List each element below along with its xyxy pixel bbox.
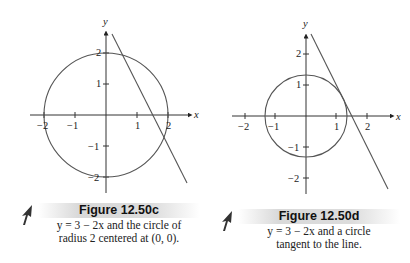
y-tick-label: −2 [288,173,299,184]
y-tick-label: 1 [96,78,101,89]
y-tick-label: 1 [296,79,301,90]
x-tick-label: −1 [268,121,279,132]
line-y-3-minus-2x [311,34,388,189]
plot-right [232,34,392,194]
figure-caption-line-1: y = 3 − 2x and the circle of [38,219,200,232]
x-tick-label: −1 [67,120,78,131]
plot-left [30,33,190,193]
y-tick-label: −1 [88,141,99,152]
pointer-arrow-icon [220,210,234,232]
line-y-3-minus-2x [112,34,187,183]
x-tick-label: −2 [37,120,48,131]
figure-caption-line-2: radius 2 centered at (0, 0). [38,232,200,245]
figure-title: Figure 12.50d [238,209,400,223]
x-tick-label: 2 [365,121,370,132]
y-tick-label: −1 [288,142,299,153]
x-axis-label: x [395,111,401,122]
figure-title: Figure 12.50c [38,203,200,217]
y-tick-label: 2 [96,47,101,58]
x-tick-label: 1 [334,121,339,132]
figure-caption-line-2: tangent to the line. [238,238,400,251]
x-axis-label: x [193,109,199,120]
y-axis-label: y [302,18,308,29]
x-tick-label: 2 [166,120,171,131]
y-tick-label: −2 [88,172,99,183]
y-tick-label: 2 [296,48,301,59]
figure-caption-line-1: y = 3 − 2x and a circle [238,225,400,238]
x-tick-label: 1 [135,120,140,131]
pointer-arrow-icon [20,204,34,226]
x-tick-label: −2 [238,121,249,132]
y-axis-label: y [102,16,108,27]
